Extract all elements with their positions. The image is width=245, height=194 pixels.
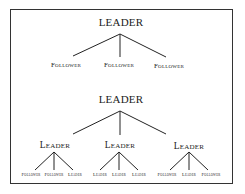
tree2-sub3-leaf-2: Leader	[182, 172, 196, 177]
tree2-sub1-leaf-2: Follower	[45, 172, 64, 177]
tree2-sub2-leaf-1: Leader	[93, 172, 107, 177]
tree2-sub2-leaf-3: Leader	[132, 172, 146, 177]
tree2-sub1-label: Leader	[40, 140, 70, 150]
tree2-sub1-leaf-1: Follower	[22, 172, 41, 177]
tree2-root-label: LEADER	[99, 93, 144, 105]
tree1-child-1-label: Follower	[51, 61, 81, 69]
tree2-sub3-label: Leader	[174, 141, 204, 151]
tree2-sub2-label: Leader	[105, 140, 135, 150]
tree1-child-2-label: Follower	[104, 61, 134, 69]
tree2-sub3-leaf-3: Follower	[202, 172, 221, 177]
tree1-child-3-label: Follower	[154, 62, 184, 70]
tree2-sub3-leaf-1: Follower	[158, 172, 177, 177]
tree1-root-label: LEADER	[99, 16, 144, 28]
tree2-sub2-leaf-2: Leader	[112, 172, 126, 177]
tree2-sub1-leaf-3: Leader	[68, 172, 82, 177]
